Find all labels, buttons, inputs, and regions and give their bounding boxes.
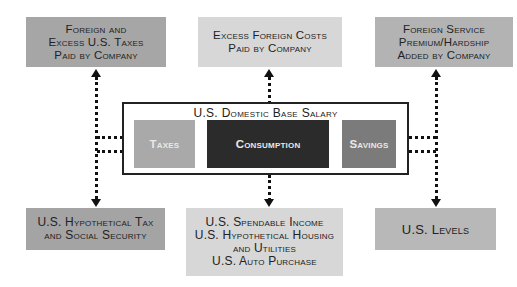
box-line: U.S. Auto Purchase bbox=[212, 255, 317, 268]
box-line: Added by Company bbox=[398, 49, 491, 62]
arrow-up-icon bbox=[91, 69, 101, 77]
box-line: U.S. Levels bbox=[402, 223, 469, 236]
foreign-excess-taxes-box: Foreign and Excess U.S. Taxes Paid by Co… bbox=[26, 17, 166, 67]
box-line: Excess Foreign Costs bbox=[213, 29, 327, 42]
us-levels-box: U.S. Levels bbox=[375, 208, 496, 250]
arrow-down-icon bbox=[431, 199, 441, 207]
arrow-down-icon bbox=[264, 199, 274, 207]
excess-foreign-costs-box: Excess Foreign Costs Paid by Company bbox=[198, 17, 342, 67]
box-line: Paid by Company bbox=[228, 42, 311, 55]
arrow-up-icon bbox=[264, 69, 274, 77]
connector-center-vertical-bottom bbox=[268, 175, 271, 201]
block-label: Consumption bbox=[236, 138, 301, 151]
connector-right-vertical bbox=[435, 77, 438, 204]
hypothetical-tax-box: U.S. Hypothetical Tax and Social Securit… bbox=[26, 208, 165, 250]
block-label: Taxes bbox=[150, 138, 180, 151]
container-title: U.S. Domestic Base Salary bbox=[124, 106, 407, 120]
taxes-block: Taxes bbox=[134, 120, 195, 168]
arrow-up-icon bbox=[431, 69, 441, 77]
box-line: Excess U.S. Taxes bbox=[48, 36, 143, 49]
consumption-block: Consumption bbox=[207, 120, 329, 168]
box-line: Foreign Service bbox=[403, 23, 485, 36]
spendable-income-box: U.S. Spendable Income U.S. Hypothetical … bbox=[186, 208, 343, 276]
foreign-service-premium-box: Foreign Service Premium/Hardship Added b… bbox=[375, 17, 513, 67]
connector-left-vertical bbox=[95, 77, 98, 204]
arrow-down-icon bbox=[91, 199, 101, 207]
box-line: Paid by Company bbox=[54, 49, 137, 62]
box-line: Foreign and bbox=[66, 23, 127, 36]
connector-center-vertical-top bbox=[268, 77, 271, 104]
box-line: Premium/Hardship bbox=[399, 36, 489, 49]
box-line: and Social Security bbox=[44, 229, 147, 242]
block-label: Savings bbox=[349, 138, 388, 151]
savings-block: Savings bbox=[342, 120, 396, 168]
